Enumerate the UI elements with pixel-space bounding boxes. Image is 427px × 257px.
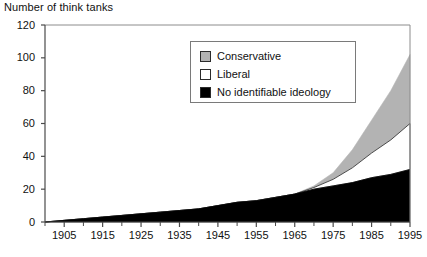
chart-figure: Number of think tanks 020406080100120 19…	[0, 0, 427, 257]
legend-swatch-no-identifiable-ideology	[200, 87, 211, 98]
x-tick-label: 1965	[275, 230, 315, 241]
legend-item-no-identifiable-ideology: No identifiable ideology	[200, 83, 355, 101]
y-tick-label: 80	[5, 85, 35, 96]
y-tick-label: 0	[5, 217, 35, 228]
y-tick-label: 120	[5, 20, 35, 31]
legend-label-liberal: Liberal	[217, 69, 250, 80]
chart-legend: Conservative Liberal No identifiable ide…	[190, 41, 356, 103]
y-tick-label: 60	[5, 118, 35, 129]
legend-item-conservative: Conservative	[200, 47, 355, 65]
legend-label-conservative: Conservative	[217, 51, 281, 62]
y-tick-label: 40	[5, 151, 35, 162]
x-tick-label: 1945	[198, 230, 238, 241]
y-tick-label: 20	[5, 184, 35, 195]
legend-swatch-liberal	[200, 69, 211, 80]
legend-item-liberal: Liberal	[200, 65, 355, 83]
y-tick-label: 100	[5, 52, 35, 63]
x-tick-label: 1905	[44, 230, 84, 241]
x-tick-label: 1925	[121, 230, 161, 241]
x-tick-label: 1985	[352, 230, 392, 241]
x-tick-label: 1915	[83, 230, 123, 241]
x-tick-label: 1955	[236, 230, 276, 241]
legend-label-no-identifiable-ideology: No identifiable ideology	[217, 87, 331, 98]
plot-area	[0, 0, 427, 257]
legend-swatch-conservative	[200, 51, 211, 62]
x-tick-label: 1995	[390, 230, 427, 241]
x-tick-label: 1935	[159, 230, 199, 241]
x-tick-label: 1975	[313, 230, 353, 241]
